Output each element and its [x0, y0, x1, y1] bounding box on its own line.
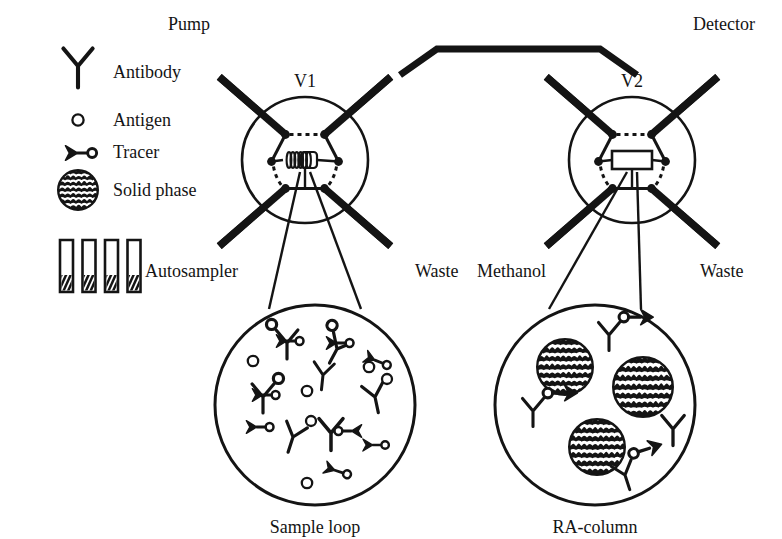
antigen-icon [382, 374, 392, 384]
legend: AntibodyAntigenTracerSolid phase [54, 48, 197, 210]
detail-caption-sample-loop: Sample loop [270, 517, 361, 537]
sample-vial [91, 240, 132, 294]
antigen-icon [364, 362, 374, 372]
detail-circle [215, 305, 415, 505]
label-waste-left: Waste [415, 261, 459, 281]
legend-item: Antibody [63, 48, 181, 87]
diagram-canvas: AntibodyAntigenTracerSolid phaseV1V2Samp… [0, 0, 782, 539]
valve-assembly-v1: V1 [219, 71, 390, 246]
ra-column-detail [495, 305, 695, 505]
legend-label: Solid phase [113, 180, 197, 200]
port-upper-right [320, 130, 329, 139]
solid-phase-bead-icon [54, 168, 104, 210]
legend-item: Antigen [72, 110, 171, 130]
antibody-y-icon [63, 48, 92, 87]
sample-vial [46, 240, 87, 294]
valve-label-v1: V1 [294, 71, 316, 91]
legend-item: Solid phase [54, 168, 197, 210]
sample-loop-detail [215, 305, 415, 505]
valve-assembly-v2: V2 [546, 71, 717, 246]
immunoassay-diagram: AntibodyAntigenTracerSolid phaseV1V2Samp… [0, 0, 782, 539]
antigen-icon [248, 356, 258, 366]
port-lower-right [320, 184, 329, 193]
sample-vials [46, 240, 155, 294]
sample-vial [69, 240, 110, 294]
antigen-icon [302, 478, 312, 488]
port-lower-right [647, 184, 656, 193]
port-upper-right [647, 130, 656, 139]
antigen-icon [302, 386, 312, 396]
antigen-icon [306, 416, 316, 426]
legend-item: Tracer [65, 142, 159, 162]
label-methanol: Methanol [477, 261, 546, 281]
label-autosampler: Autosampler [145, 261, 238, 281]
tracer-arrow-icon [65, 146, 96, 161]
antigen-circle-icon [72, 114, 83, 125]
legend-label: Antigen [113, 110, 171, 130]
transfer-line [400, 49, 637, 75]
legend-label: Antibody [113, 62, 181, 82]
port-lower-left [281, 184, 290, 193]
label-detector: Detector [693, 14, 755, 34]
detail-caption-ra-column: RA-column [553, 517, 638, 537]
label-waste-right: Waste [700, 261, 744, 281]
label-pump: Pump [168, 14, 210, 34]
port-upper-left [281, 130, 290, 139]
port-upper-left [608, 130, 617, 139]
legend-label: Tracer [113, 142, 159, 162]
